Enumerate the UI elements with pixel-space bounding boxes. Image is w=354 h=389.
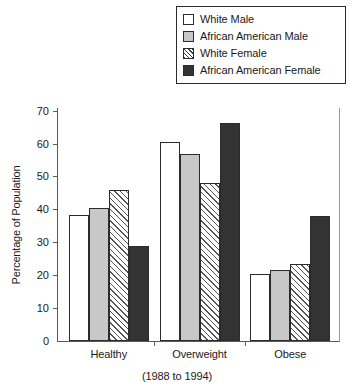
legend-label-african-american-female: African American Female bbox=[200, 64, 321, 76]
legend-item-white-male: White Male bbox=[183, 11, 340, 27]
x-axis-separator-tick bbox=[245, 341, 246, 346]
bar bbox=[250, 274, 270, 341]
y-axis-label: Percentage of Population bbox=[10, 120, 22, 330]
plot-area: Percentage of Population 010203040506070… bbox=[57, 108, 340, 342]
legend-item-african-american-female: African American Female bbox=[183, 62, 340, 78]
x-axis-separator-tick bbox=[154, 341, 155, 346]
bar bbox=[160, 142, 180, 341]
x-axis-label: Overweight bbox=[172, 348, 227, 360]
bar bbox=[129, 246, 149, 341]
legend-swatch-african-american-female bbox=[183, 65, 194, 76]
legend-swatch-white-male bbox=[183, 14, 194, 25]
chart-subtitle: (1988 to 1994) bbox=[0, 370, 354, 382]
legend-label-white-male: White Male bbox=[200, 13, 254, 25]
bar bbox=[109, 190, 129, 341]
x-axis-label: Healthy bbox=[90, 348, 127, 360]
bar bbox=[220, 123, 240, 342]
bar bbox=[89, 208, 109, 341]
bar bbox=[180, 154, 200, 341]
legend-label-african-american-male: African American Male bbox=[200, 30, 308, 42]
legend-swatch-african-american-male bbox=[183, 31, 194, 42]
chart-legend: White Male African American Male White F… bbox=[176, 6, 346, 84]
bar bbox=[200, 183, 220, 341]
bar bbox=[310, 216, 330, 341]
legend-item-white-female: White Female bbox=[183, 45, 340, 61]
x-axis-label: Obese bbox=[274, 348, 306, 360]
bar-chart: White Male African American Male White F… bbox=[0, 0, 354, 389]
bar bbox=[69, 215, 89, 342]
legend-swatch-white-female bbox=[183, 48, 194, 59]
y-tick-label: 0 bbox=[24, 335, 58, 346]
legend-label-white-female: White Female bbox=[200, 47, 267, 59]
bar bbox=[270, 270, 290, 341]
bar bbox=[290, 264, 310, 341]
bars-layer bbox=[58, 108, 339, 341]
legend-item-african-american-male: African American Male bbox=[183, 28, 340, 44]
